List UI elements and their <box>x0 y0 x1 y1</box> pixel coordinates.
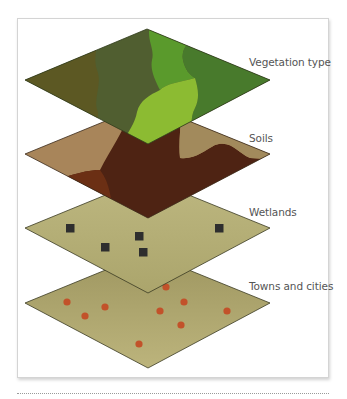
town-dot-icon <box>101 303 108 310</box>
label-vegetation-type: Vegetation type <box>249 56 331 68</box>
wetland-square-icon <box>135 232 144 241</box>
town-dot-icon <box>156 307 163 314</box>
layer-vegetation-type <box>20 25 275 150</box>
label-towns-and-cities: Towns and cities <box>249 280 333 292</box>
wetland-square-icon <box>66 224 75 233</box>
label-wetlands: Wetlands <box>249 206 297 218</box>
town-dot-icon <box>177 321 184 328</box>
label-soils: Soils <box>249 132 273 144</box>
town-dot-icon <box>63 298 70 305</box>
town-dot-icon <box>180 298 187 305</box>
wetland-square-icon <box>215 224 224 233</box>
wetland-square-icon <box>101 243 110 252</box>
town-dot-icon <box>223 307 230 314</box>
wetland-square-icon <box>139 248 148 257</box>
dotted-divider <box>17 393 329 394</box>
town-dot-icon <box>135 340 142 347</box>
town-dot-icon <box>81 312 88 319</box>
